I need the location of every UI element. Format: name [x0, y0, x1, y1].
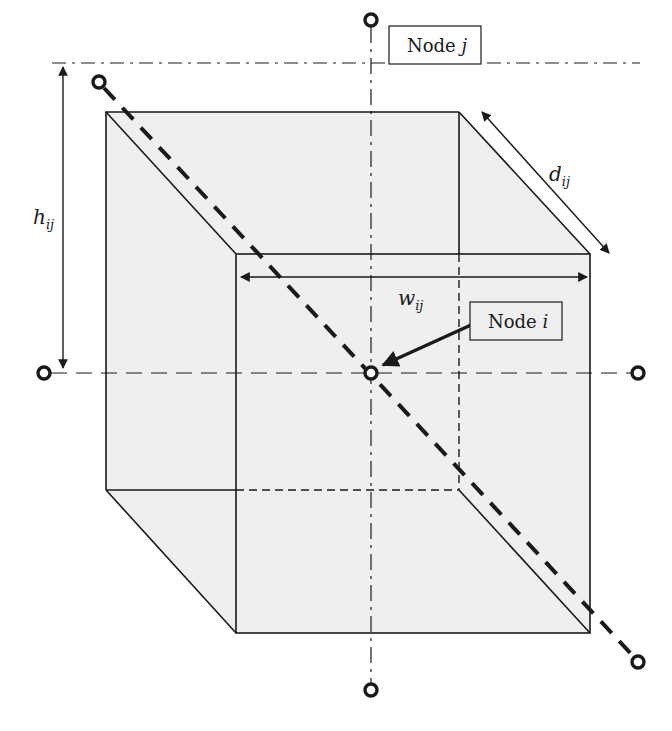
node-j-top [365, 14, 377, 26]
node-bottom [365, 684, 377, 696]
node-right [632, 367, 644, 379]
node-i-text: Node i [488, 311, 548, 332]
node-diagonal-bottom-right [632, 656, 644, 668]
height-label: hij [33, 205, 54, 232]
node-j-text: Node j [407, 35, 468, 56]
node-diagonal-top-left [93, 76, 105, 88]
node-left [38, 367, 50, 379]
node-i-center [365, 367, 377, 379]
cube-node-diagram: hij dij wij Node j Node i [0, 0, 672, 731]
depth-label: dij [549, 162, 570, 189]
node-j-label: Node j [389, 26, 481, 64]
